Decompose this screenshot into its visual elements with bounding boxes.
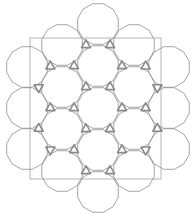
dodecagon-12 — [114, 151, 155, 192]
triangle-gap — [82, 82, 91, 90]
dodecagon-3 — [78, 130, 119, 171]
triangle-gap — [82, 124, 91, 132]
dodecagon-1 — [78, 46, 119, 87]
triangle-gap — [106, 166, 115, 174]
triangle-gap — [118, 103, 127, 111]
dodecagon-7 — [42, 109, 83, 150]
dodecagon-16 — [149, 47, 190, 88]
triangle-gap — [118, 145, 127, 153]
triangle-gap — [106, 40, 115, 48]
dodecagon-18 — [149, 129, 190, 170]
dodecagon-6 — [42, 67, 83, 108]
dodecagon-10 — [114, 67, 155, 108]
tiling-diagram — [0, 0, 196, 218]
dodecagon-17 — [149, 88, 190, 129]
triangle-gap — [70, 145, 79, 153]
triangle-gap — [82, 40, 91, 48]
triangle-gap — [70, 61, 79, 69]
triangle-gap — [106, 124, 115, 132]
dodecagon-8 — [42, 151, 83, 192]
triangle-gap — [118, 61, 127, 69]
dodecagon-group — [7, 4, 190, 213]
dodecagon-2 — [78, 88, 119, 129]
triangle-gap — [70, 103, 79, 111]
dodecagon-9 — [114, 25, 155, 66]
dodecagon-4 — [78, 172, 119, 213]
triangle-gap — [106, 82, 115, 90]
triangle-group — [34, 40, 162, 174]
tiling-canvas — [0, 0, 196, 218]
frame-rectangle — [30, 38, 161, 179]
dodecagon-11 — [114, 109, 155, 150]
dodecagon-15 — [7, 129, 48, 170]
dodecagon-14 — [7, 88, 48, 129]
dodecagon-5 — [42, 25, 83, 66]
triangle-gap — [82, 166, 91, 174]
dodecagon-13 — [7, 47, 48, 88]
